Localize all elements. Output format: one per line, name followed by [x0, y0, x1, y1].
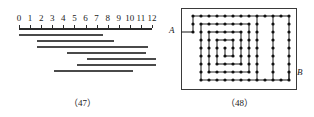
- maze-node-6-3: [239, 38, 242, 41]
- maze-node-3-0: [215, 14, 218, 17]
- maze-node-12-2: [287, 30, 290, 33]
- maze-node-2-3: [207, 38, 210, 41]
- maze-node-9-8: [263, 78, 266, 81]
- axis-line: [19, 28, 152, 30]
- point-label-a: A: [169, 26, 175, 35]
- maze-node-12-8: [287, 78, 290, 81]
- maze-node-4-2: [223, 30, 226, 33]
- maze-node-8-4: [255, 46, 258, 49]
- maze-node-12-1: [287, 22, 290, 25]
- maze-node-3-3: [215, 38, 218, 41]
- axis-tick-3: [52, 25, 53, 28]
- axis-tick-4: [63, 25, 64, 28]
- maze-node-7-7: [247, 70, 250, 73]
- maze-node-10-2: [271, 30, 274, 33]
- maze-node-1-8: [199, 78, 202, 81]
- maze-node-3-5: [215, 54, 218, 57]
- axis-tick-label-3: 3: [50, 14, 55, 23]
- maze-node-4-7: [223, 70, 226, 73]
- maze-node-2-1: [207, 22, 210, 25]
- interval-bar-1: [19, 34, 103, 36]
- maze-node-11-0: [279, 14, 282, 17]
- maze-node-2-6: [207, 62, 210, 65]
- maze-node-7-3: [247, 38, 250, 41]
- maze-node-11-8: [279, 78, 282, 81]
- maze-node-6-2: [239, 30, 242, 33]
- axis-tick-label-2: 2: [39, 14, 44, 23]
- maze-node-6-6: [239, 62, 242, 65]
- axis-tick-label-0: 0: [17, 14, 22, 23]
- maze-node-12-5: [287, 54, 290, 57]
- maze-node-2-2: [207, 30, 210, 33]
- maze-node-10-8: [271, 78, 274, 81]
- axis-tick-label-8: 8: [105, 14, 110, 23]
- axis-tick-label-1: 1: [28, 14, 33, 23]
- maze-node-5-6: [231, 62, 234, 65]
- maze-node-3-2: [215, 30, 218, 33]
- interval-bar-7: [54, 70, 133, 72]
- maze-node-5-3: [231, 38, 234, 41]
- maze-node-1-3: [199, 38, 202, 41]
- maze-node-2-4: [207, 46, 210, 49]
- maze-node-8-5: [255, 54, 258, 57]
- axis-tick-6: [86, 25, 87, 28]
- maze-node-6-7: [239, 70, 242, 73]
- axis-tick-label-11: 11: [137, 14, 146, 23]
- maze-node-10-5: [271, 54, 274, 57]
- interval-bar-2: [37, 40, 115, 42]
- axis-tick-label-9: 9: [117, 14, 122, 23]
- axis-tick-label-12: 12: [148, 14, 157, 23]
- interval-bar-4: [67, 52, 147, 54]
- maze-node-1-0: [199, 14, 202, 17]
- maze-node-10-7: [271, 70, 274, 73]
- maze-node-6-5: [239, 54, 242, 57]
- interval-bar-3: [37, 46, 148, 48]
- maze-node-1-7: [199, 70, 202, 73]
- maze-node-1-2: [199, 30, 202, 33]
- interval-bar-6: [77, 64, 157, 66]
- axis-tick-5: [74, 25, 75, 28]
- figure-48: A B （48）: [165, 0, 314, 117]
- maze-node-8-1: [255, 22, 258, 25]
- maze-node-10-6: [271, 62, 274, 65]
- maze-node-5-7: [231, 70, 234, 73]
- axis-tick-8: [108, 25, 109, 28]
- figure-48-caption: （48）: [165, 96, 314, 109]
- maze-node-0-0: [191, 14, 194, 17]
- axis-tick-9: [119, 25, 120, 28]
- maze-node-4-4: [223, 46, 226, 49]
- axis-tick-label-6: 6: [83, 14, 88, 23]
- maze-node-3-1: [215, 22, 218, 25]
- maze-node-10-0: [271, 14, 274, 17]
- maze-node-4-8: [223, 78, 226, 81]
- axis-tick-1: [30, 25, 31, 28]
- maze-node-1-5: [199, 54, 202, 57]
- maze-node-12-7: [287, 70, 290, 73]
- maze-node-6-1: [239, 22, 242, 25]
- maze-node-7-6: [247, 62, 250, 65]
- maze-node-7-1: [247, 22, 250, 25]
- axis-tick-label-10: 10: [125, 14, 134, 23]
- maze-node-5-2: [231, 30, 234, 33]
- maze-node-2-0: [207, 14, 210, 17]
- maze-node-7-8: [247, 78, 250, 81]
- maze-node-7-2: [247, 30, 250, 33]
- maze-node-10-4: [271, 46, 274, 49]
- maze-node-7-4: [247, 46, 250, 49]
- maze-node-10-1: [271, 22, 274, 25]
- maze-node-7-0: [247, 14, 250, 17]
- number-line-axis: 0123456789101112: [0, 0, 165, 90]
- maze-node-12-3: [287, 38, 290, 41]
- interval-bar-5: [87, 58, 157, 60]
- maze-node-10-3: [271, 38, 274, 41]
- axis-tick-2: [41, 25, 42, 28]
- maze-node-1-1: [199, 22, 202, 25]
- maze-node-0-2: [191, 30, 194, 33]
- maze-node-8-8: [255, 78, 258, 81]
- maze-node-4-1: [223, 22, 226, 25]
- maze-node-8-2: [255, 30, 258, 33]
- figure-47-caption: （47）: [0, 96, 165, 109]
- axis-tick-7: [97, 25, 98, 28]
- maze-node-7-5: [247, 54, 250, 57]
- maze-node-6-4: [239, 46, 242, 49]
